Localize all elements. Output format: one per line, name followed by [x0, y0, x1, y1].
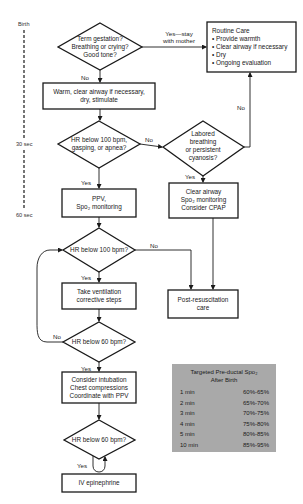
edge-label-text: Yes—stay	[163, 30, 195, 37]
edge-label-yes-4: Yes	[81, 365, 91, 372]
node-text: HR below 100 bpm,	[64, 136, 134, 144]
node-text: Spo₂ monitoring	[169, 196, 238, 204]
node-ppv: PPV, Spo₂ monitoring	[62, 195, 136, 211]
edge-label-no-loop: No	[53, 333, 61, 340]
node-text: Warm, clear airway if necessary,	[43, 88, 155, 96]
routine-care-item: • Ongoing evaluation	[212, 59, 287, 67]
row-range: 75%-80%	[243, 419, 269, 430]
routine-care-title: Routine Care	[212, 27, 287, 35]
node-text: Breathing or crying?	[70, 43, 130, 51]
spo2-table-row: 1 min60%-65%	[172, 387, 276, 398]
node-hr60-a: HR below 60 bpm?	[64, 338, 134, 346]
edge-label-yes-stay: Yes—stay with mother	[163, 30, 195, 44]
node-text: PPV,	[62, 195, 136, 203]
node-text: HR below 60 bpm?	[64, 338, 134, 346]
node-text: HR below 60 bpm?	[64, 436, 134, 444]
node-clear-airway: Clear airway Spo₂ monitoring Consider CP…	[169, 188, 238, 212]
node-text: Good tone?	[70, 51, 130, 59]
row-time: 2 min	[180, 398, 195, 409]
spo2-table-row: 2 min65%-70%	[172, 398, 276, 409]
node-text: Clear airway	[169, 188, 238, 196]
spo2-table-title-line: After Birth	[172, 377, 276, 385]
edge-label-yes-3: Yes	[81, 274, 91, 281]
spo2-table-title: Targeted Pre-ductal Spo₂ After Birth	[172, 369, 276, 384]
node-text: HR below 100 bpm?	[64, 246, 134, 254]
row-range: 70%-75%	[243, 408, 269, 419]
row-time: 10 min	[180, 440, 198, 451]
row-time: 5 min	[180, 429, 195, 440]
node-hr100-gasping: HR below 100 bpm, gasping, or apnea?	[64, 136, 134, 152]
node-text: breathing	[178, 138, 228, 146]
node-text: Spo₂ monitoring	[62, 203, 136, 211]
node-routine-care: Routine Care • Provide warmth • Clear ai…	[212, 27, 287, 67]
edge-label-no-routine: No	[237, 104, 245, 111]
node-intubation: Consider intubation Chest compressions C…	[62, 376, 136, 400]
edge-label-text: with mother	[163, 37, 195, 44]
spo2-table-row: 3 min70%-75%	[172, 408, 276, 419]
node-text: Take ventilation	[62, 288, 136, 296]
edge-label-no-3: No	[150, 242, 158, 249]
node-hr60-b: HR below 60 bpm?	[64, 436, 134, 444]
routine-care-item: • Provide warmth	[212, 35, 287, 43]
routine-care-item: • Dry	[212, 51, 287, 59]
row-range: 60%-65%	[243, 387, 269, 398]
node-text: Consider CPAP	[169, 204, 238, 212]
node-text: Coordinate with PPV	[62, 392, 136, 400]
spo2-table-row: 5 min80%-85%	[172, 429, 276, 440]
spo2-table-row: 10 min85%-95%	[172, 440, 276, 451]
node-iv-epinephrine: IV epinephrine	[62, 479, 136, 487]
edge-label-yes-5: Yes	[77, 462, 87, 469]
edge-label-yes-2: Yes	[185, 173, 195, 180]
edge-label-no-1: No	[81, 74, 89, 81]
node-text: IV epinephrine	[62, 479, 136, 487]
node-text: Chest compressions	[62, 384, 136, 392]
node-term-gestation: Term gestation? Breathing or crying? Goo…	[70, 35, 130, 59]
node-ventilation-corrective: Take ventilation corrective steps	[62, 288, 136, 304]
node-text: Labored	[178, 130, 228, 138]
row-range: 65%-70%	[243, 398, 269, 409]
timeline-60sec-label: 60 sec	[16, 212, 32, 218]
node-text: Post-resuscitation	[168, 296, 238, 304]
node-text: or persistent	[178, 146, 228, 154]
edge-label-no-2: No	[145, 136, 153, 143]
row-range: 80%-85%	[243, 429, 269, 440]
row-range: 85%-95%	[243, 440, 269, 451]
row-time: 1 min	[180, 387, 195, 398]
node-text: care	[168, 304, 238, 312]
node-labored-breathing: Labored breathing or persistent cyanosis…	[178, 130, 228, 162]
timeline-birth-label: Birth	[18, 21, 30, 27]
row-time: 3 min	[180, 408, 195, 419]
node-warm-clear-airway: Warm, clear airway if necessary, dry, st…	[43, 88, 155, 104]
node-text: cyanosis?	[178, 154, 228, 162]
spo2-table-row: 4 min75%-80%	[172, 419, 276, 430]
node-text: Consider intubation	[62, 376, 136, 384]
routine-care-item: • Clear airway if necessary	[212, 43, 287, 51]
node-text: dry, stimulate	[43, 96, 155, 104]
row-time: 4 min	[180, 419, 195, 430]
node-post-resuscitation: Post-resuscitation care	[168, 296, 238, 312]
spo2-target-table: Targeted Pre-ductal Spo₂ After Birth 1 m…	[172, 364, 276, 452]
edge-label-yes-1: Yes	[81, 179, 91, 186]
spo2-table-title-line: Targeted Pre-ductal Spo₂	[172, 369, 276, 377]
node-text: gasping, or apnea?	[64, 144, 134, 152]
node-hr100: HR below 100 bpm?	[64, 246, 134, 254]
node-text: corrective steps	[62, 296, 136, 304]
timeline-30sec-label: 30 sec	[16, 141, 32, 147]
node-text: Term gestation?	[70, 35, 130, 43]
